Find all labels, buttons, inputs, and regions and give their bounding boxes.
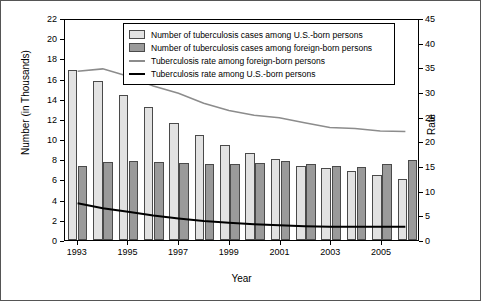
x-tick-mark xyxy=(127,241,128,245)
x-tick-label: 1993 xyxy=(62,248,92,257)
y-tick-label: 22 xyxy=(35,15,57,24)
y2-tick-label: 20 xyxy=(425,138,449,147)
y-tick-label: 20 xyxy=(35,35,57,44)
y2-tick-mark xyxy=(419,142,423,143)
x-tick-label: 1999 xyxy=(214,248,244,257)
y2-tick-label: 45 xyxy=(425,15,449,24)
legend-item-foreign-born-cases: Number of tuberculosis cases among forei… xyxy=(129,41,389,54)
y2-tick-mark xyxy=(419,216,423,217)
y2-tick-mark xyxy=(419,192,423,193)
x-tick-mark xyxy=(280,241,281,245)
chart-legend: Number of tuberculosis cases among U.S.-… xyxy=(123,23,395,85)
x-tick-label: 2005 xyxy=(366,248,396,257)
legend-item-foreign-born-rate: Tuberculosis rate among foreign-born per… xyxy=(129,54,389,67)
y2-tick-mark xyxy=(419,118,423,119)
y2-tick-label: 35 xyxy=(425,64,449,73)
y2-tick-mark xyxy=(419,68,423,69)
y-tick-label: 8 xyxy=(35,156,57,165)
x-tick-label: 2001 xyxy=(265,248,295,257)
tuberculosis-cases-chart: Number (in Thousands) Rate Year 02468101… xyxy=(0,0,481,301)
x-tick-label: 1997 xyxy=(163,248,193,257)
y2-tick-label: 30 xyxy=(425,89,449,98)
x-tick-label: 1995 xyxy=(112,248,142,257)
y2-tick-label: 40 xyxy=(425,40,449,49)
x-tick-mark xyxy=(178,241,179,245)
y2-tick-label: 25 xyxy=(425,114,449,123)
y-tick-label: 14 xyxy=(35,96,57,105)
y-tick-label: 6 xyxy=(35,176,57,185)
x-tick-label: 2003 xyxy=(315,248,345,257)
y-tick-label: 4 xyxy=(35,197,57,206)
y2-tick-mark xyxy=(419,93,423,94)
y2-tick-mark xyxy=(419,167,423,168)
y2-tick-label: 0 xyxy=(425,237,449,246)
legend-line-black-icon xyxy=(129,69,145,78)
y-axis-title: Number (in Thousands) xyxy=(20,33,31,173)
x-tick-mark xyxy=(229,241,230,245)
x-tick-mark xyxy=(77,241,78,245)
y-tick-label: 2 xyxy=(35,217,57,226)
y2-tick-mark xyxy=(419,44,423,45)
legend-line-gray-icon xyxy=(129,56,145,65)
y2-tick-label: 10 xyxy=(425,188,449,197)
y2-tick-label: 5 xyxy=(425,212,449,221)
y-tick-label: 12 xyxy=(35,116,57,125)
legend-swatch-dark-icon xyxy=(129,43,145,52)
y-tick-label: 10 xyxy=(35,136,57,145)
legend-item-us-born-cases: Number of tuberculosis cases among U.S.-… xyxy=(129,28,389,41)
y2-tick-label: 15 xyxy=(425,163,449,172)
legend-label: Number of tuberculosis cases among forei… xyxy=(151,43,372,53)
y-tick-label: 18 xyxy=(35,55,57,64)
legend-item-us-born-rate: Tuberculosis rate among U.S.-born person… xyxy=(129,67,389,80)
legend-label: Number of tuberculosis cases among U.S.-… xyxy=(151,30,363,40)
legend-swatch-light-icon xyxy=(129,30,145,39)
x-axis-title: Year xyxy=(64,273,419,284)
y2-tick-mark xyxy=(419,241,423,242)
line-us-born-rate xyxy=(78,203,406,226)
y-tick-label: 0 xyxy=(35,237,57,246)
x-tick-mark xyxy=(381,241,382,245)
y-tick-label: 16 xyxy=(35,76,57,85)
x-tick-mark xyxy=(330,241,331,245)
y-tick-mark xyxy=(60,241,64,242)
y2-tick-mark xyxy=(419,19,423,20)
legend-label: Tuberculosis rate among foreign-born per… xyxy=(151,56,325,66)
legend-label: Tuberculosis rate among U.S.-born person… xyxy=(151,69,316,79)
